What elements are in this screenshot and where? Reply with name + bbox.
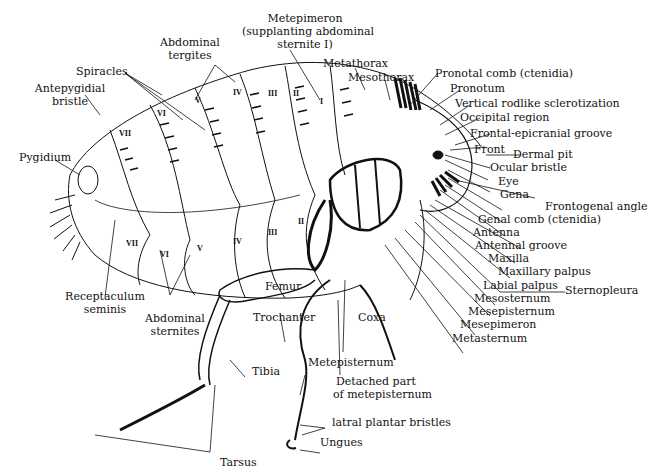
label-lateral-plantar-bristles: latral plantar bristles [332,417,451,429]
label-abdominal-sternites: Abdominal [140,313,210,325]
label-metepimeron-note: sternite I) [245,39,365,51]
label-genal-comb: Genal comb (ctenidia) [478,214,601,226]
label-pygidium: Pygidium [19,152,71,164]
sternite-numeral: VII [126,239,138,248]
label-maxillary-palpus: Maxillary palpus [498,266,591,278]
label-metepimeron-note: (supplanting abdominal [228,26,388,38]
sternite-numeral: II [298,217,304,226]
label-gena: Gena [500,189,529,201]
label-occipital-region: Occipital region [460,112,549,124]
sternite-numeral: IV [233,237,242,246]
label-trochanter: Trochanter [253,312,315,324]
sternite-numeral: V [197,244,203,253]
label-frontogenal-angle: Frontogenal angle [545,201,648,213]
flea-anatomy-diagram: VII VI V IV III II I VII VI V IV III II … [0,0,653,475]
tergite-numeral: III [268,89,277,98]
label-metathorax: Metathorax [323,58,388,70]
label-dermal-pit: Dermal pit [513,149,573,161]
label-receptaculum-seminis: seminis [60,304,150,316]
label-ocular-bristle: Ocular bristle [490,162,567,174]
label-maxilla: Maxilla [488,253,529,265]
tergite-numeral: VI [157,109,166,118]
label-mesepisternum: Mesepisternum [468,306,555,318]
label-receptaculum-seminis: Receptaculum [60,291,150,303]
label-pronotal-comb: Pronotal comb (ctenidia) [435,68,573,80]
label-metepisternum: Metepisternum [308,357,394,369]
label-coxa: Coxa [358,312,386,324]
label-tarsus: Tarsus [220,457,257,469]
tergite-numeral: V [195,96,201,105]
tergite-numeral: IV [233,88,242,97]
label-mesothorax: Mesothorax [348,72,414,84]
label-spiracles: Spiracles [76,66,128,78]
tergite-numeral: VII [119,129,131,138]
label-ungues: Ungues [320,437,363,449]
label-tibia: Tibia [252,366,280,378]
label-abdominal-tergites: tergites [150,50,230,62]
label-metasternum: Metasternum [452,333,527,345]
label-antepygidial-bristle: bristle [30,96,110,108]
label-detached-part-of-metepisternum: Detached part [336,376,416,388]
label-metepimeron: Metepimeron [245,13,365,25]
sternite-numeral: VI [160,250,169,259]
tergite-numeral: II [293,89,299,98]
label-labial-palpus: Labial palpus [483,280,558,292]
label-antepygidial-bristle: Antepygidial [30,83,110,95]
label-abdominal-tergites: Abdominal [150,37,230,49]
sternite-numeral: III [268,228,277,237]
label-femur: Femur [265,281,301,293]
label-abdominal-sternites: sternites [140,326,210,338]
label-vertical-rodlike-sclerotization: Vertical rodlike sclerotization [455,98,620,110]
label-antennal-groove: Antennal groove [475,240,567,252]
label-front: Front [474,144,505,156]
label-frontal-epicranial-groove: Frontal-epicranial groove [470,128,612,140]
tergite-numeral: I [320,97,323,106]
label-pronotum: Pronotum [450,83,505,95]
label-mesepimeron: Mesepimeron [460,319,536,331]
label-sternopleura: Sternopleura [565,285,638,297]
label-antenna: Antenna [473,227,520,239]
label-detached-part-of-metepisternum: of metepisternum [333,389,432,401]
label-eye: Eye [498,176,519,188]
label-mesosternum: Mesosternum [474,293,550,305]
